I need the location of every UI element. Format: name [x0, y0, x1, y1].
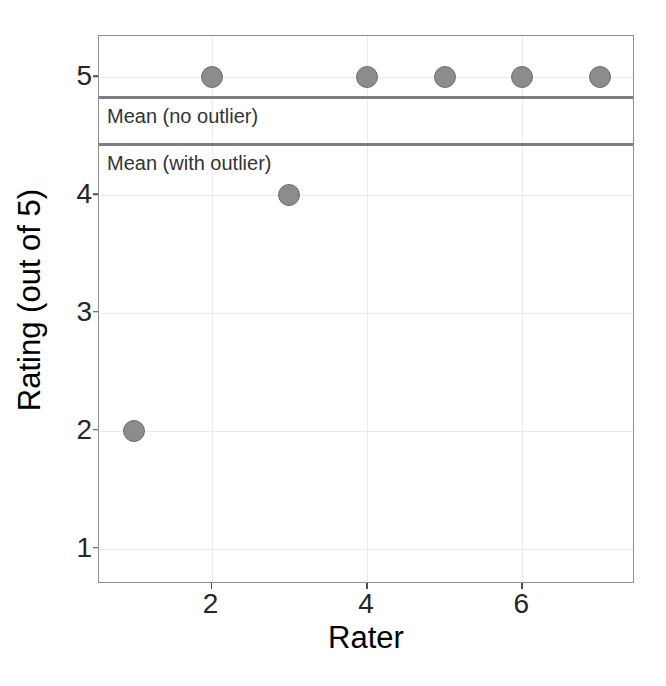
y-tick-label: 4: [52, 178, 92, 210]
data-point: [434, 66, 456, 88]
gridline-horizontal: [99, 549, 633, 550]
y-tick-label: 1: [52, 532, 92, 564]
data-point: [278, 184, 300, 206]
scatter-plot-figure: Rating (out of 5) 12345 Mean (no outlier…: [0, 0, 666, 686]
reference-line-mean-with-outlier: [99, 143, 633, 146]
gridline-horizontal: [99, 313, 633, 314]
y-axis-title-text: Rating (out of 5): [12, 189, 48, 411]
gridline-horizontal: [99, 431, 633, 432]
y-axis-tick-labels: 12345: [48, 0, 92, 686]
data-point: [589, 66, 611, 88]
x-axis-title: Rater: [98, 620, 634, 656]
x-tick-label: 2: [181, 588, 241, 620]
reference-line-mean-no-outlier: [99, 96, 633, 99]
gridline-vertical: [522, 36, 523, 582]
y-tick-label: 5: [52, 60, 92, 92]
gridline-horizontal: [99, 195, 633, 196]
y-tick-label: 3: [52, 296, 92, 328]
data-point: [201, 66, 223, 88]
gridline-vertical: [367, 36, 368, 582]
y-tick-label: 2: [52, 414, 92, 446]
data-point: [356, 66, 378, 88]
x-tick-label: 6: [491, 588, 551, 620]
data-point: [123, 420, 145, 442]
reference-line-label-mean-with-outlier: Mean (with outlier): [107, 152, 272, 175]
x-tick-label: 4: [336, 588, 396, 620]
plot-panel: Mean (no outlier)Mean (with outlier): [98, 35, 634, 583]
reference-line-label-mean-no-outlier: Mean (no outlier): [107, 105, 258, 128]
data-point: [511, 66, 533, 88]
